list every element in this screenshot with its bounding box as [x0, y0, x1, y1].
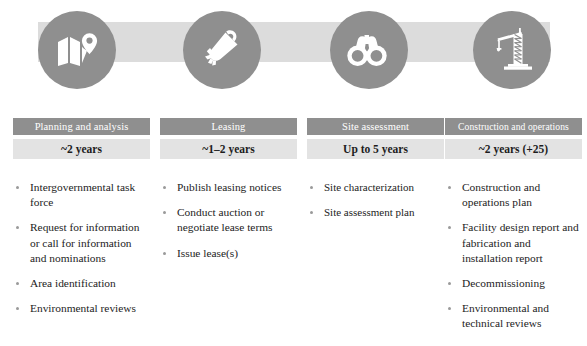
list-item: Area identification	[13, 276, 150, 291]
phase-duration: ~1–2 years	[160, 139, 297, 159]
task-text: Request for information or call for info…	[30, 221, 139, 263]
list-item: Environmental and technical reviews	[445, 301, 582, 331]
task-text: Intergovernmental task force	[30, 181, 135, 208]
list-item: Site characterization	[307, 180, 444, 195]
phase-title: Planning and analysis	[13, 118, 150, 135]
list-item: Publish leasing notices	[160, 180, 297, 195]
task-text: Conduct auction or negotiate lease terms	[177, 206, 273, 233]
list-item: Environmental reviews	[13, 301, 150, 316]
phase-column-planning-and-analysis: Planning and analysis ~2 years Intergove…	[13, 118, 150, 326]
scroll-lease-icon	[201, 29, 243, 71]
bullet-icon	[16, 282, 19, 285]
phase-icon-circle-planning	[38, 11, 116, 89]
list-item: Facility design report and fabrication a…	[445, 220, 582, 266]
phase-duration: ~2 years (+25)	[445, 139, 582, 159]
construction-crane-icon	[491, 28, 533, 72]
phase-title: Leasing	[160, 118, 297, 135]
bullet-icon	[448, 307, 451, 310]
list-item: Site assessment plan	[307, 205, 444, 220]
bullet-icon	[448, 186, 451, 189]
phase-task-list: Intergovernmental task force Request for…	[13, 159, 150, 316]
list-item: Conduct auction or negotiate lease terms	[160, 205, 297, 235]
phase-task-list: Publish leasing notices Conduct auction …	[160, 159, 297, 261]
phase-icon-circle-construction	[473, 11, 551, 89]
task-text: Environmental reviews	[30, 302, 136, 314]
list-item: Construction and operations plan	[445, 180, 582, 210]
list-item: Request for information or call for info…	[13, 220, 150, 266]
phase-icon-circle-leasing	[183, 11, 261, 89]
binoculars-icon	[346, 33, 392, 67]
phase-icon-circle-site-assessment	[330, 11, 408, 89]
task-text: Environmental and technical reviews	[462, 302, 549, 329]
bullet-icon	[310, 186, 313, 189]
task-text: Site characterization	[324, 181, 414, 193]
bullet-icon	[448, 282, 451, 285]
phase-title: Construction and operations	[445, 118, 582, 135]
bullet-icon	[163, 211, 166, 214]
phase-column-site-assessment: Site assessment Up to 5 years Site chara…	[307, 118, 444, 230]
phase-task-list: Construction and operations plan Facilit…	[445, 159, 582, 332]
list-item: Intergovernmental task force	[13, 180, 150, 210]
task-text: Area identification	[30, 277, 116, 289]
phase-column-leasing: Leasing ~1–2 years Publish leasing notic…	[160, 118, 297, 271]
bullet-icon	[16, 186, 19, 189]
task-text: Construction and operations plan	[462, 181, 540, 208]
task-text: Publish leasing notices	[177, 181, 281, 193]
list-item: Decommissioning	[445, 276, 582, 291]
bullet-icon	[16, 307, 19, 310]
task-text: Issue lease(s)	[177, 247, 238, 259]
phase-duration: ~2 years	[13, 139, 150, 159]
phase-title: Site assessment	[307, 118, 444, 135]
task-text: Decommissioning	[462, 277, 545, 289]
phase-task-list: Site characterization Site assessment pl…	[307, 159, 444, 220]
bullet-icon	[310, 211, 313, 214]
task-text: Facility design report and fabrication a…	[462, 221, 579, 263]
phase-column-construction-and-operations: Construction and operations ~2 years (+2…	[445, 118, 582, 342]
phase-columns: Planning and analysis ~2 years Intergove…	[0, 118, 587, 346]
phase-duration: Up to 5 years	[307, 139, 444, 159]
bullet-icon	[163, 186, 166, 189]
bullet-icon	[163, 252, 166, 255]
bullet-icon	[16, 226, 19, 229]
task-text: Site assessment plan	[324, 206, 414, 218]
list-item: Issue lease(s)	[160, 246, 297, 261]
process-icon-band	[0, 0, 587, 108]
map-pin-icon	[55, 30, 99, 70]
bullet-icon	[448, 226, 451, 229]
